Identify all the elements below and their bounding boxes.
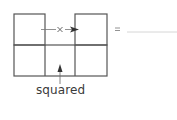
squared-label: squared <box>36 83 84 97</box>
x-mark-icon <box>58 27 63 32</box>
squared-arrow <box>58 64 63 84</box>
arrow-up-icon <box>58 64 63 72</box>
cell-top-left <box>14 14 45 45</box>
equals-sign <box>115 28 120 31</box>
cell-top-right <box>75 14 107 45</box>
grid-diagram <box>0 0 177 120</box>
